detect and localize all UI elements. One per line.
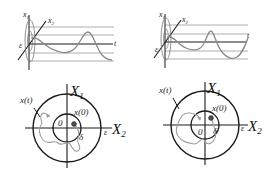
- x1-label: x1: [158, 10, 165, 20]
- x1-label: x1: [22, 10, 29, 20]
- initial-point: [72, 122, 77, 127]
- right-phase-plane: x(t) x(0) 0 δ ε X1 X2: [158, 80, 262, 165]
- x2-label: x2: [47, 16, 55, 26]
- t-label: t: [247, 31, 250, 40]
- origin-label: 0: [198, 127, 203, 137]
- x2-axis-label: X2: [247, 118, 262, 136]
- epsilon-label: ε: [19, 41, 23, 50]
- x1-axis-label: X1: [69, 83, 84, 101]
- delta-label: δ: [79, 132, 84, 142]
- trajectory-arrowhead: [197, 117, 201, 121]
- x-0-label: x(0): [211, 103, 227, 113]
- initial-point: [209, 116, 214, 121]
- x-t-label: x(t): [19, 95, 33, 105]
- trajectory-curve: [167, 31, 248, 58]
- x2-axis-label: X2: [111, 121, 126, 139]
- epsilon-tube-ellipse: [161, 18, 171, 60]
- epsilon-label: ε: [104, 128, 108, 137]
- x1-axis-label: X1: [206, 80, 221, 98]
- trajectory-curve: [31, 32, 112, 60]
- x-0-label: x(0): [73, 107, 89, 117]
- origin-label: 0: [58, 118, 63, 128]
- t-label: t: [114, 39, 117, 48]
- x-t-label: x(t): [158, 85, 172, 95]
- left-phase-plane: x(t) x(0) 0 δ ε X1 X2: [19, 83, 126, 168]
- left-time-plot: x1 x2 t ε: [18, 10, 117, 70]
- stability-diagram: x1 x2 t ε x1 x2 t ε x(t) x(0) 0: [0, 0, 272, 180]
- epsilon-tube-ellipse: [25, 20, 35, 62]
- right-time-plot: x1 x2 t ε: [154, 10, 250, 68]
- x2-label: x2: [181, 15, 189, 25]
